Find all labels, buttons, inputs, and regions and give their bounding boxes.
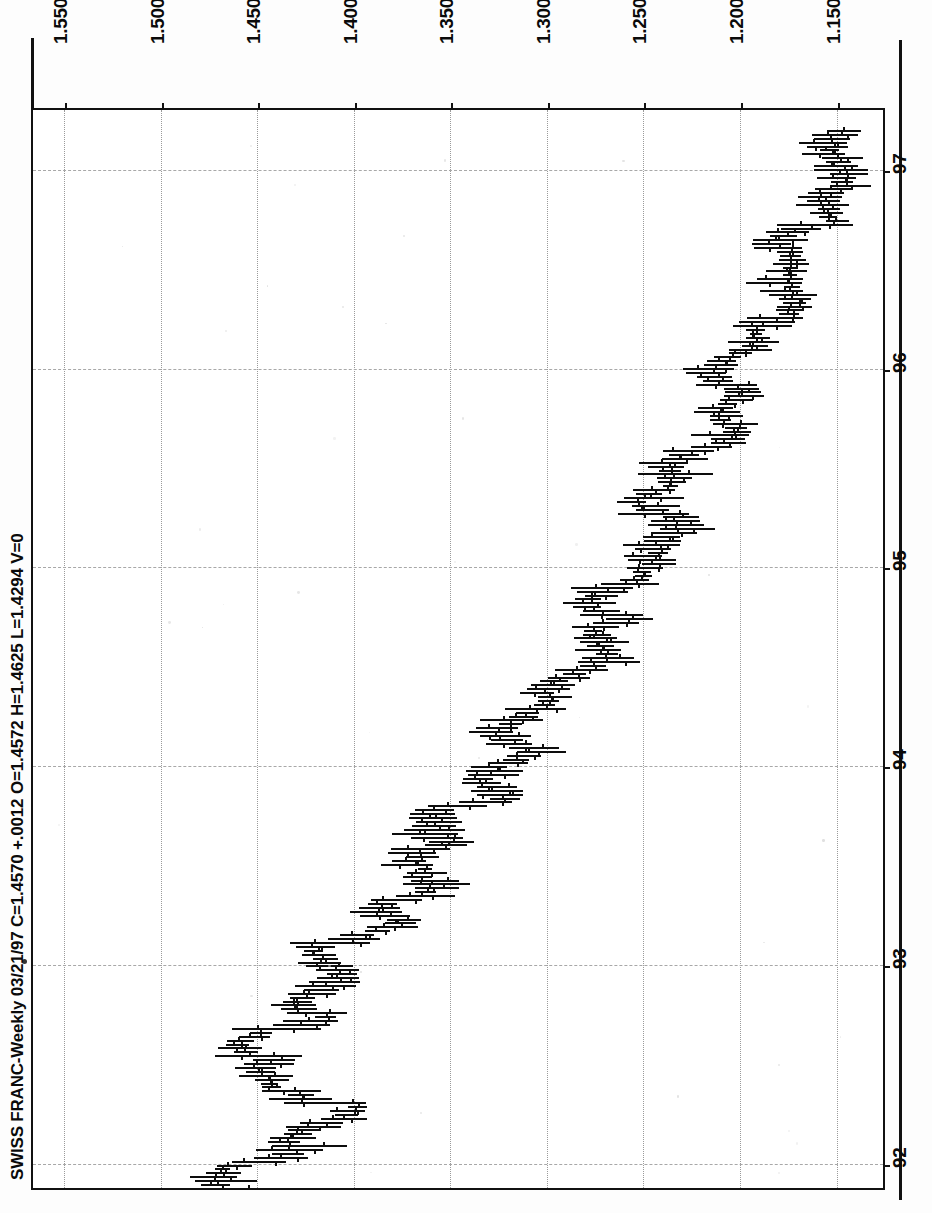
ohlc-close-tick	[762, 322, 764, 326]
ohlc-close-tick	[638, 502, 640, 506]
ohlc-close-tick	[655, 556, 657, 560]
ohlc-close-tick	[731, 435, 733, 439]
ohlc-close-tick	[432, 896, 434, 900]
ohlc-close-tick	[503, 744, 505, 748]
ohlc-bar	[662, 458, 708, 460]
ohlc-bar	[239, 1075, 293, 1077]
ohlc-close-tick	[628, 619, 630, 623]
ohlc-bar	[538, 696, 572, 698]
ohlc-close-tick	[490, 771, 492, 775]
scan-speck	[822, 839, 825, 842]
ohlc-close-tick	[397, 920, 399, 924]
ohlc-bar	[327, 973, 356, 975]
ohlc-bar	[720, 399, 753, 401]
ohlc-bar	[698, 407, 732, 409]
ohlc-close-tick	[308, 990, 310, 994]
ohlc-close-tick	[830, 193, 832, 197]
ohlc-close-tick	[676, 521, 678, 525]
price-gridline	[354, 110, 356, 1188]
ohlc-close-tick	[469, 806, 471, 810]
ohlc-close-tick	[672, 537, 674, 541]
ohlc-close-tick	[827, 209, 829, 213]
ohlc-close-tick	[784, 295, 786, 299]
ohlc-bar	[812, 134, 858, 136]
ohlc-bar	[371, 899, 422, 901]
ohlc-bar	[201, 1184, 230, 1186]
ohlc-bar	[757, 278, 804, 280]
time-axis-label: 96	[889, 352, 911, 373]
ohlc-close-tick	[769, 283, 771, 287]
ohlc-close-tick	[249, 1052, 251, 1056]
ohlc-close-tick	[236, 1166, 238, 1170]
ohlc-close-tick	[433, 849, 435, 853]
price-gridline	[643, 110, 645, 1188]
ohlc-close-tick	[605, 654, 607, 658]
ohlc-close-tick	[339, 970, 341, 974]
ohlc-close-tick	[423, 838, 425, 842]
ohlc-bar	[651, 532, 697, 534]
ohlc-bar	[817, 177, 856, 179]
ohlc-bar	[639, 462, 688, 464]
ohlc-bar	[563, 602, 616, 604]
ohlc-open-tick	[257, 1025, 259, 1029]
ohlc-close-tick	[789, 287, 791, 291]
ohlc-close-tick	[790, 271, 792, 275]
ohlc-close-tick	[822, 205, 824, 209]
ohlc-close-tick	[222, 1185, 224, 1188]
ohlc-bar	[391, 848, 451, 850]
ohlc-open-tick	[697, 365, 699, 369]
ohlc-open-tick	[415, 869, 417, 873]
ohlc-close-tick	[260, 1033, 262, 1037]
ohlc-close-tick	[752, 342, 754, 346]
scan-speck	[202, 627, 203, 628]
ohlc-close-tick	[667, 486, 669, 490]
ohlc-close-tick	[271, 1084, 273, 1088]
ohlc-close-tick	[591, 599, 593, 603]
time-axis-label: 93	[889, 949, 911, 970]
ohlc-close-tick	[792, 240, 794, 244]
ohlc-close-tick	[301, 1130, 303, 1134]
price-axis-label: 1.2500	[629, 0, 651, 44]
ohlc-open-tick	[709, 431, 711, 435]
ohlc-close-tick	[376, 912, 378, 916]
ohlc-bar	[669, 454, 699, 456]
ohlc-open-tick	[248, 1185, 250, 1188]
scan-speck	[454, 561, 456, 563]
ohlc-close-tick	[832, 150, 834, 154]
ohlc-close-tick	[733, 428, 735, 432]
ohlc-close-tick	[597, 603, 599, 607]
ohlc-close-tick	[322, 955, 324, 959]
ohlc-bar	[593, 622, 639, 624]
ohlc-open-tick	[619, 654, 621, 658]
ohlc-bar	[302, 954, 336, 956]
ohlc-close-tick	[752, 330, 754, 334]
ohlc-bar	[218, 1047, 262, 1049]
scan-speck	[779, 447, 780, 448]
ohlc-close-tick	[790, 256, 792, 260]
ohlc-close-tick	[287, 1138, 289, 1142]
ohlc-open-tick	[409, 892, 411, 896]
ohlc-close-tick	[421, 892, 423, 896]
ohlc-bar	[281, 1008, 317, 1010]
ohlc-bar	[215, 1055, 303, 1057]
ohlc-bar	[587, 645, 613, 647]
ohlc-open-tick	[336, 1107, 338, 1111]
ohlc-bar	[409, 817, 457, 819]
ohlc-open-tick	[748, 381, 750, 385]
ohlc-bar	[309, 981, 360, 983]
ohlc-close-tick	[792, 318, 794, 322]
year-gridline	[33, 1164, 883, 1166]
ohlc-close-tick	[804, 232, 806, 236]
ohlc-bar	[739, 321, 795, 323]
ohlc-close-tick	[293, 1029, 295, 1033]
ohlc-close-tick	[401, 923, 403, 927]
ohlc-bar	[815, 188, 852, 190]
ohlc-bar	[575, 649, 621, 651]
ohlc-close-tick	[510, 728, 512, 732]
scan-speck	[796, 1142, 799, 1145]
price-axis-label: 1.5500	[50, 0, 72, 44]
ohlc-bar	[624, 497, 685, 499]
ohlc-bar	[729, 352, 752, 354]
ohlc-close-tick	[778, 236, 780, 240]
ohlc-bar	[582, 657, 634, 659]
